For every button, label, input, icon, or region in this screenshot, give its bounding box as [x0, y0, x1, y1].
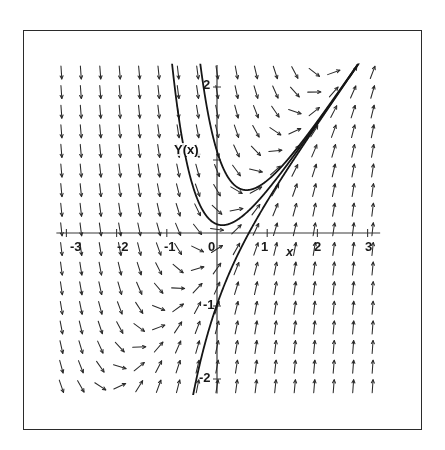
direction-field-plot — [0, 0, 445, 450]
y-tick-label-2: 2 — [203, 78, 210, 91]
figure-root: -3 -2 -1 0 1 2 3 2 -1 -2 x Y(x) — [0, 0, 445, 450]
y-tick-label--2: -2 — [199, 371, 211, 384]
x-tick-label-3: 3 — [365, 240, 372, 253]
x-tick-label-0: 0 — [208, 240, 215, 253]
x-axis-name: x — [286, 245, 293, 258]
x-tick-label-1: 1 — [261, 240, 268, 253]
x-tick-label--1: -1 — [164, 240, 176, 253]
x-tick-label-2: 2 — [314, 240, 321, 253]
x-tick-label--2: -2 — [117, 240, 129, 253]
y-tick-label--1: -1 — [203, 298, 215, 311]
solution-curve-label: Y(x) — [173, 143, 200, 156]
x-tick-label--3: -3 — [70, 240, 82, 253]
